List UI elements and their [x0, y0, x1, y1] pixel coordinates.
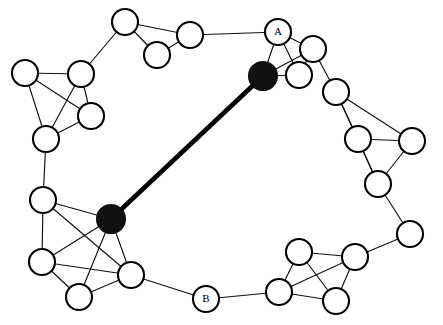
graph-canvas: AB — [0, 0, 443, 325]
bridge-edge — [111, 76, 263, 219]
graph-node-highlighted[interactable] — [97, 205, 125, 233]
graph-node[interactable] — [29, 249, 55, 275]
graph-node[interactable] — [266, 279, 292, 305]
graph-node[interactable] — [68, 61, 94, 87]
graph-node[interactable] — [345, 126, 371, 152]
bridge-edge-layer — [111, 76, 263, 219]
graph-node[interactable] — [144, 42, 170, 68]
graph-node[interactable] — [399, 128, 425, 154]
graph-node[interactable] — [177, 22, 203, 48]
graph-node[interactable] — [365, 171, 391, 197]
graph-node[interactable] — [397, 221, 423, 247]
graph-node[interactable] — [112, 9, 138, 35]
graph-node[interactable] — [30, 187, 56, 213]
graph-node[interactable] — [78, 103, 104, 129]
graph-node[interactable] — [323, 288, 349, 314]
graph-node[interactable] — [342, 244, 368, 270]
graph-node[interactable] — [323, 79, 349, 105]
graph-node[interactable] — [118, 262, 144, 288]
graph-node-labeled[interactable] — [265, 19, 291, 45]
graph-node-highlighted[interactable] — [249, 62, 277, 90]
graph-node[interactable] — [33, 126, 59, 152]
graph-node[interactable] — [66, 284, 92, 310]
graph-node[interactable] — [286, 239, 312, 265]
graph-node-labeled[interactable] — [193, 286, 219, 312]
graph-node[interactable] — [12, 60, 38, 86]
node-layer — [12, 9, 425, 314]
graph-diagram: AB — [0, 0, 443, 325]
graph-node[interactable] — [300, 36, 326, 62]
graph-node[interactable] — [286, 62, 312, 88]
